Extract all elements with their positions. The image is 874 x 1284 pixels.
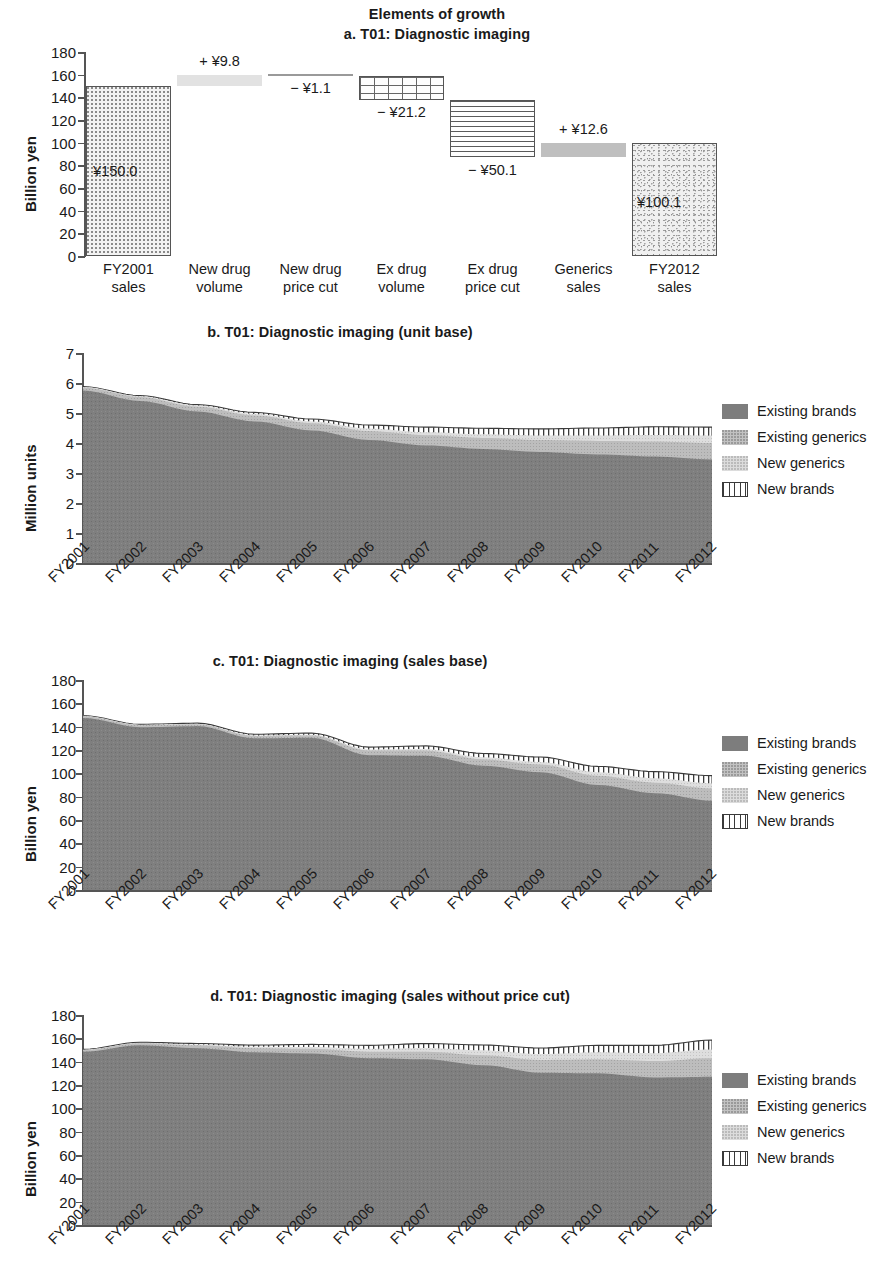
legend-swatch-new-generics — [722, 456, 748, 471]
panel-c-ytick: 40 — [28, 836, 76, 851]
panel-b-ytick: 7 — [38, 346, 74, 361]
legend-swatch-new-brands — [722, 482, 748, 497]
panel-c-ytick: 180 — [28, 673, 76, 688]
panel-a-waterfall: Elements of growth a. T01: Diagnostic im… — [0, 0, 874, 318]
panel-a-title: a. T01: Diagnostic imaging — [0, 26, 874, 42]
legend-label-new-brands: New brands — [757, 813, 834, 829]
bar-new-drug-volume[interactable] — [177, 75, 262, 86]
legend-swatch-existing-brands — [722, 1073, 748, 1088]
panel-c-ytick: 60 — [28, 813, 76, 828]
panel-a-ytick: 20 — [28, 226, 76, 241]
panel-a-xcat-new-drug-price-cut: New drug price cut — [265, 261, 356, 296]
panel-d-plot-area — [83, 1015, 712, 1225]
panel-c-ytick: 160 — [28, 696, 76, 711]
panel-b-plot-area — [83, 353, 712, 563]
bar-ex-drug-volume[interactable] — [359, 76, 444, 100]
panel-b-ytick: 2 — [38, 496, 74, 511]
bar-new-drug-price-cut[interactable] — [268, 74, 353, 76]
panel-a-ytick: 140 — [28, 90, 76, 105]
xcat-line2: sales — [541, 279, 626, 297]
panel-c-ytick: 80 — [28, 790, 76, 805]
panel-a-ytick: 80 — [28, 158, 76, 173]
panel-d-legend: Existing brands Existing generics New ge… — [722, 1067, 867, 1171]
panel-c-ytick: 140 — [28, 720, 76, 735]
panel-d-ytick: 120 — [28, 1078, 76, 1093]
legend-item-new-brands[interactable]: New brands — [722, 808, 867, 834]
xcat-line2: price cut — [265, 279, 356, 297]
legend-label-existing-generics: Existing generics — [757, 761, 867, 777]
panel-b-ytick: 5 — [38, 406, 74, 421]
panel-a-ytick: 60 — [28, 181, 76, 196]
legend-swatch-existing-generics — [722, 762, 748, 777]
panel-a-ytick: 160 — [28, 68, 76, 83]
legend-item-existing-brands[interactable]: Existing brands — [722, 398, 867, 424]
legend-label-new-generics: New generics — [757, 787, 845, 803]
legend-label-new-generics: New generics — [757, 455, 845, 471]
panel-d-ytick: 160 — [28, 1031, 76, 1046]
panel-a-xcat-ex-drug-volume: Ex drug volume — [359, 261, 444, 296]
panel-b-ytick: 6 — [38, 376, 74, 391]
legend-item-existing-generics[interactable]: Existing generics — [722, 756, 867, 782]
panel-d-ytick: 140 — [28, 1055, 76, 1070]
panel-a-ytick: 120 — [28, 113, 76, 128]
panel-d-ytick: 80 — [28, 1125, 76, 1140]
legend-item-new-brands[interactable]: New brands — [722, 1145, 867, 1171]
xcat-line1: Ex drug — [359, 261, 444, 279]
bar-label-new-drug-price-cut: − ¥1.1 — [268, 80, 353, 96]
legend-item-new-generics[interactable]: New generics — [722, 782, 867, 808]
panel-b-ytick: 3 — [38, 466, 74, 481]
panel-b-y-axis-label: Million units — [22, 445, 39, 533]
bar-label-generics-sales: + ¥12.6 — [541, 121, 626, 137]
panel-a-ytick: 0 — [28, 249, 76, 264]
bar-generics-sales[interactable] — [541, 143, 626, 157]
panel-b-area-unit-base: b. T01: Diagnostic imaging (unit base) M… — [0, 320, 874, 620]
xcat-line1: New drug — [265, 261, 356, 279]
legend-swatch-existing-brands — [722, 404, 748, 419]
legend-swatch-existing-brands — [722, 736, 748, 751]
panel-b-title: b. T01: Diagnostic imaging (unit base) — [40, 324, 640, 340]
legend-item-new-generics[interactable]: New generics — [722, 450, 867, 476]
panel-a-ytick: 100 — [28, 136, 76, 151]
legend-item-new-generics[interactable]: New generics — [722, 1119, 867, 1145]
legend-item-existing-generics[interactable]: Existing generics — [722, 1093, 867, 1119]
panel-d-ytick: 40 — [28, 1171, 76, 1186]
panel-d-area-sales-without-price-cut: d. T01: Diagnostic imaging (sales withou… — [0, 975, 874, 1284]
panel-a-ytick: 40 — [28, 204, 76, 219]
legend-item-existing-brands[interactable]: Existing brands — [722, 730, 867, 756]
panel-b-ytick: 1 — [38, 526, 74, 541]
figure-suptitle: Elements of growth — [0, 6, 874, 22]
bar-label-ex-drug-volume: − ¥21.2 — [359, 104, 444, 120]
panel-c-area-sales-base: c. T01: Diagnostic imaging (sales base) … — [0, 650, 874, 960]
legend-item-existing-brands[interactable]: Existing brands — [722, 1067, 867, 1093]
xcat-line1: Ex drug — [447, 261, 538, 279]
legend-label-existing-generics: Existing generics — [757, 429, 867, 445]
xcat-line1: New drug — [177, 261, 262, 279]
bar-label-fy2001-sales: ¥150.0 — [93, 163, 137, 179]
legend-label-new-brands: New brands — [757, 1150, 834, 1166]
bar-ex-drug-price-cut[interactable] — [450, 100, 535, 157]
bar-label-new-drug-volume: + ¥9.8 — [177, 53, 262, 69]
panel-d-ytick: 180 — [28, 1008, 76, 1023]
xcat-line2: volume — [177, 279, 262, 297]
panel-a-xcat-ex-drug-price-cut: Ex drug price cut — [447, 261, 538, 296]
panel-a-xcat-generics-sales: Generics sales — [541, 261, 626, 296]
legend-swatch-new-brands — [722, 814, 748, 829]
legend-swatch-new-generics — [722, 1125, 748, 1140]
xcat-line1: FY2012 — [632, 261, 717, 279]
legend-item-new-brands[interactable]: New brands — [722, 476, 867, 502]
xcat-line2: volume — [359, 279, 444, 297]
area-series-existing-brands — [83, 718, 712, 890]
legend-label-existing-brands: Existing brands — [757, 403, 856, 419]
panel-b-ytick: 4 — [38, 436, 74, 451]
xcat-line2: sales — [632, 279, 717, 297]
legend-label-existing-generics: Existing generics — [757, 1098, 867, 1114]
legend-label-new-brands: New brands — [757, 481, 834, 497]
panel-c-ytick: 20 — [28, 860, 76, 875]
xcat-line2: price cut — [447, 279, 538, 297]
panel-c-ytick: 100 — [28, 766, 76, 781]
xcat-line2: sales — [86, 279, 171, 297]
panel-a-xcat-new-drug-volume: New drug volume — [177, 261, 262, 296]
panel-b-legend: Existing brands Existing generics New ge… — [722, 398, 867, 502]
legend-item-existing-generics[interactable]: Existing generics — [722, 424, 867, 450]
panel-a-xcat-fy2012-sales: FY2012 sales — [632, 261, 717, 296]
